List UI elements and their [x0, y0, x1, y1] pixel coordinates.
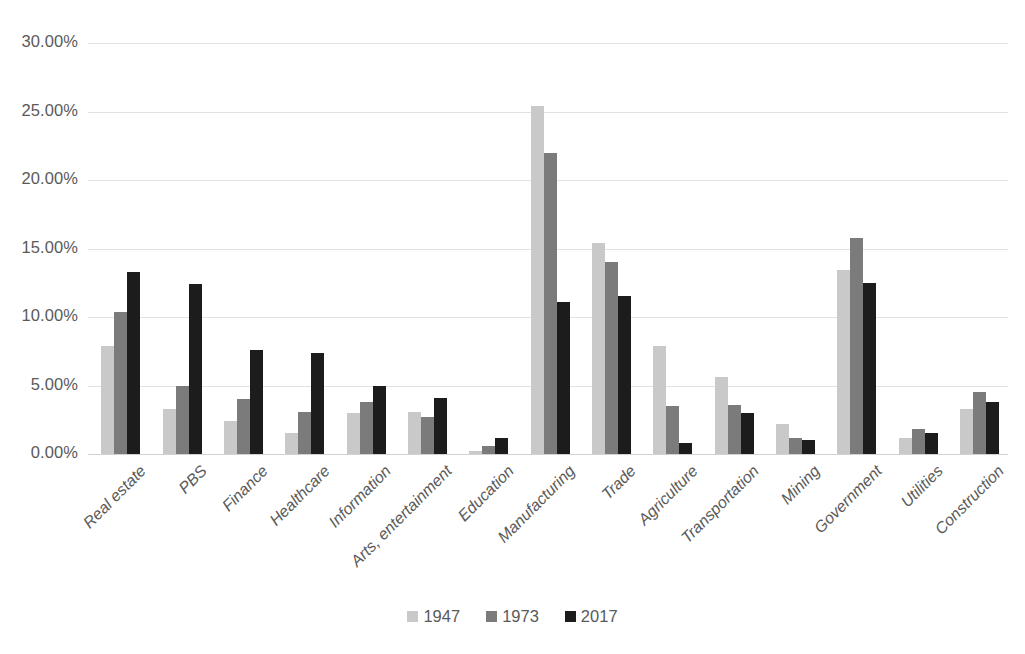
x-axis: Real estatePBSFinanceHealthcareInformati…	[88, 454, 1008, 594]
bar	[163, 409, 176, 454]
bar	[592, 243, 605, 454]
bar	[482, 446, 495, 454]
bar	[495, 438, 508, 454]
bar	[802, 440, 815, 454]
bar	[899, 438, 912, 454]
legend-swatch-icon	[565, 611, 576, 622]
bar	[912, 429, 925, 454]
bar	[434, 398, 447, 454]
bar	[176, 386, 189, 455]
y-axis-tick-label: 30.00%	[0, 32, 78, 51]
y-axis-tick-label: 5.00%	[0, 375, 78, 394]
x-axis-tick-label: Healthcare	[266, 462, 333, 529]
bar	[679, 443, 692, 454]
bar	[237, 399, 250, 454]
x-axis-tick-label: Trade	[599, 462, 640, 503]
chart-legend: 194719732017	[0, 608, 1025, 625]
legend-label: 1947	[423, 608, 460, 625]
bar	[973, 392, 986, 454]
bar	[531, 106, 544, 454]
bar	[653, 346, 666, 454]
y-axis-tick-label: 0.00%	[0, 443, 78, 462]
bar	[557, 302, 570, 454]
legend-swatch-icon	[486, 611, 497, 622]
bar	[285, 433, 298, 454]
bar	[224, 421, 237, 454]
bar	[373, 386, 386, 455]
bar-group	[469, 43, 508, 454]
bar-group	[837, 43, 876, 454]
bar-group	[285, 43, 324, 454]
bar	[850, 238, 863, 454]
legend-label: 2017	[581, 608, 618, 625]
y-axis-tick-label: 25.00%	[0, 101, 78, 120]
bar	[618, 296, 631, 454]
bar	[544, 153, 557, 454]
plot-area	[88, 43, 1008, 454]
bar-group	[592, 43, 631, 454]
legend-label: 1973	[502, 608, 539, 625]
bar	[360, 402, 373, 454]
bar-group	[347, 43, 386, 454]
bar	[986, 402, 999, 454]
bar-group	[960, 43, 999, 454]
bar	[605, 262, 618, 454]
legend-item[interactable]: 1947	[407, 608, 460, 625]
bar-group	[653, 43, 692, 454]
y-axis-tick-label: 15.00%	[0, 238, 78, 257]
bar	[715, 377, 728, 454]
bar-group	[715, 43, 754, 454]
y-axis-tick-label: 10.00%	[0, 306, 78, 325]
bar-group	[224, 43, 263, 454]
bar-group	[101, 43, 140, 454]
bar	[311, 353, 324, 454]
legend-item[interactable]: 2017	[565, 608, 618, 625]
x-axis-tick-label: Finance	[219, 462, 272, 515]
x-axis-tick-label: Utilities	[898, 462, 947, 511]
bar	[298, 412, 311, 454]
bar	[127, 272, 140, 454]
bar	[101, 346, 114, 454]
x-axis-tick-label: Education	[454, 462, 517, 525]
bar-group	[899, 43, 938, 454]
bar	[776, 424, 789, 454]
y-axis-tick-label: 20.00%	[0, 169, 78, 188]
bar	[408, 412, 421, 454]
bar-group	[408, 43, 447, 454]
x-axis-tick-label: PBS	[175, 462, 210, 497]
bar	[421, 417, 434, 454]
y-axis: 30.00%25.00%20.00%15.00%10.00%5.00%0.00%	[0, 0, 80, 654]
bar-group	[776, 43, 815, 454]
x-axis-tick-label: Real estate	[79, 462, 149, 532]
legend-item[interactable]: 1973	[486, 608, 539, 625]
bar	[863, 283, 876, 454]
bars-layer	[88, 43, 1008, 454]
bar	[114, 312, 127, 454]
bar	[837, 270, 850, 454]
bar	[666, 406, 679, 454]
bar-group	[531, 43, 570, 454]
bar	[728, 405, 741, 454]
bar	[789, 438, 802, 454]
x-axis-tick-label: Mining	[778, 462, 824, 508]
bar	[925, 433, 938, 454]
bar	[960, 409, 973, 454]
bar	[189, 284, 202, 454]
bar	[741, 413, 754, 454]
bar-group	[163, 43, 202, 454]
legend-swatch-icon	[407, 611, 418, 622]
bar	[250, 350, 263, 454]
bar-chart: 30.00%25.00%20.00%15.00%10.00%5.00%0.00%…	[0, 0, 1025, 654]
bar	[347, 413, 360, 454]
